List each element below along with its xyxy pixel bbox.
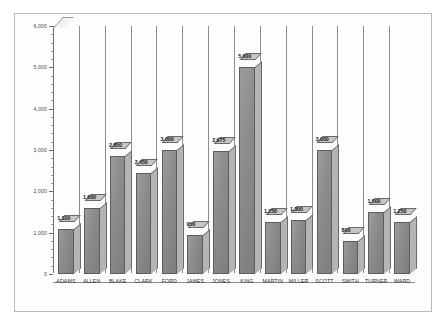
bar-column[interactable]	[58, 220, 74, 274]
y-axis-minor-tick	[51, 208, 53, 209]
y-axis-minor-tick	[51, 241, 53, 242]
y-axis-minor-tick	[51, 167, 53, 168]
y-axis-major-tick	[49, 150, 53, 151]
y-axis-minor-tick	[51, 249, 53, 250]
bar-side-face	[255, 61, 262, 274]
y-axis-minor-tick	[51, 216, 53, 217]
y-axis-major-tick	[49, 233, 53, 234]
y-axis-minor-tick	[51, 224, 53, 225]
y-axis-minor-tick	[51, 34, 53, 35]
bar-value-label: 2,450	[135, 159, 148, 165]
y-axis-minor-tick	[51, 43, 53, 44]
bar-front-face	[239, 67, 255, 274]
y-axis-major-tick	[49, 191, 53, 192]
bar-front-face	[136, 173, 152, 274]
bar-value-label: 1,300	[290, 206, 303, 212]
bar-column[interactable]	[239, 58, 255, 274]
bar-front-face	[291, 220, 307, 274]
y-axis-tick-label: 1,000	[17, 230, 47, 236]
bar-side-face	[203, 229, 210, 274]
y-axis-minor-tick	[51, 175, 53, 176]
y-axis-minor-tick	[51, 100, 53, 101]
bar-front-face	[317, 150, 333, 274]
bar-column[interactable]	[213, 142, 229, 274]
bar-column[interactable]	[162, 141, 178, 274]
bar-front-face	[187, 235, 203, 274]
bar-value-label: 950	[186, 221, 195, 227]
bar-front-face	[394, 222, 410, 274]
bar-column[interactable]	[265, 213, 281, 274]
y-axis-minor-tick	[51, 92, 53, 93]
y-axis-tick-label: 2,000	[17, 188, 47, 194]
y-axis-tick-label: 4,000	[17, 106, 47, 112]
y-axis-minor-tick	[51, 125, 53, 126]
y-axis-tick-label: 0	[17, 271, 47, 277]
y-axis-tick-label: 5,000	[17, 64, 47, 70]
plot-area: 01,0002,0003,0004,0005,0006,000 1,1001,6…	[53, 26, 415, 274]
bar-side-face	[229, 145, 236, 274]
y-axis-minor-tick	[51, 76, 53, 77]
y-axis-major-tick	[49, 67, 53, 68]
back-wall-top-edge	[53, 17, 74, 28]
y-axis-minor-tick	[51, 142, 53, 143]
bar-side-face	[410, 216, 417, 274]
y-axis-minor-tick	[51, 200, 53, 201]
bar-value-label: 3,000	[316, 136, 329, 142]
bar-front-face	[265, 222, 281, 274]
bar-value-label: 1,250	[264, 208, 277, 214]
y-axis-tick-label: 6,000	[17, 23, 47, 29]
y-axis-minor-tick	[51, 133, 53, 134]
bar-column[interactable]	[84, 199, 100, 274]
y-axis-major-tick	[49, 26, 53, 27]
bar-value-label: 2,850	[109, 142, 122, 148]
x-axis-category-label: WARD	[385, 278, 419, 284]
bar-side-face	[151, 167, 158, 274]
y-axis-line	[53, 26, 54, 274]
bar-column[interactable]	[343, 232, 359, 274]
y-axis-minor-tick	[51, 117, 53, 118]
bar-value-label: 3,000	[161, 136, 174, 142]
bar-front-face	[213, 151, 229, 274]
y-axis-minor-tick	[51, 158, 53, 159]
y-axis-minor-tick	[51, 51, 53, 52]
bar-column[interactable]	[291, 211, 307, 274]
bar-front-face	[368, 212, 384, 274]
bar-side-face	[177, 144, 184, 274]
bar-column[interactable]	[136, 164, 152, 274]
bar-front-face	[162, 150, 178, 274]
bar-value-label: 1,250	[393, 208, 406, 214]
bar-column[interactable]	[317, 141, 333, 274]
bar-value-label: 1,100	[57, 215, 70, 221]
chart-frame: 01,0002,0003,0004,0005,0006,000 1,1001,6…	[14, 13, 432, 312]
bar-side-face	[74, 223, 81, 274]
bar-side-face	[100, 202, 107, 274]
bar-value-label: 1,600	[83, 194, 96, 200]
y-axis-minor-tick	[51, 266, 53, 267]
bar-side-face	[306, 214, 313, 274]
bar-value-label: 1,500	[367, 198, 380, 204]
bar-value-label: 2,975	[212, 137, 225, 143]
bar-column[interactable]	[187, 226, 203, 274]
y-axis-minor-tick	[51, 183, 53, 184]
y-axis-tick-label: 3,000	[17, 147, 47, 153]
bar-value-label: 5,000	[238, 53, 251, 59]
y-axis-minor-tick	[51, 84, 53, 85]
bar-value-label: 800	[342, 227, 351, 233]
bar-front-face	[58, 229, 74, 274]
y-axis-major-tick	[49, 109, 53, 110]
bar-side-face	[384, 206, 391, 274]
bar-side-face	[125, 150, 132, 274]
bar-column[interactable]	[368, 203, 384, 274]
bar-side-face	[332, 144, 339, 274]
y-axis-minor-tick	[51, 257, 53, 258]
bar-column[interactable]	[394, 213, 410, 274]
bar-front-face	[84, 208, 100, 274]
bar-side-face	[281, 216, 288, 274]
bar-front-face	[343, 241, 359, 274]
bar-front-face	[110, 156, 126, 274]
bar-column[interactable]	[110, 147, 126, 274]
bar-side-face	[358, 235, 365, 274]
y-axis-minor-tick	[51, 59, 53, 60]
